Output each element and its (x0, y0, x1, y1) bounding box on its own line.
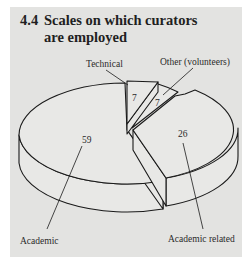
value-other: 7 (155, 98, 160, 108)
label-technical: Technical (86, 59, 123, 69)
pie-chart: Technical Other (volunteers) Academic Ac… (0, 0, 249, 267)
label-other: Other (volunteers) (160, 57, 230, 68)
value-academic-related: 26 (178, 129, 188, 139)
value-technical: 7 (132, 93, 137, 103)
label-academic: Academic (20, 236, 59, 246)
value-academic: 59 (82, 135, 92, 145)
leader-other (163, 68, 193, 95)
label-academic-related: Academic related (168, 234, 235, 244)
